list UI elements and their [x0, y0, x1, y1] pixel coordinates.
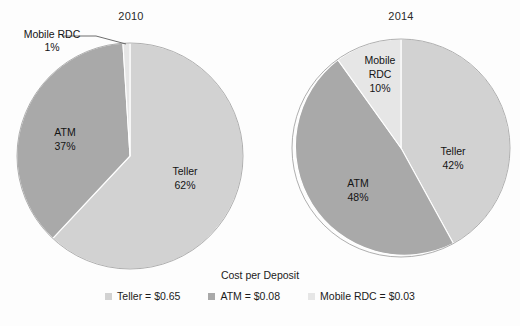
legend-item-mobile-rdc[interactable]: Mobile RDC = $0.03	[308, 290, 415, 302]
pie-chart-2014: Teller 42% ATM 48% Mobile RDC 10%	[280, 0, 520, 280]
slice-label-teller-2014-pct: 42%	[442, 159, 463, 171]
slice-label-atm-2014-pct: 48%	[347, 191, 368, 203]
legend-label-mobile-rdc: Mobile RDC = $0.03	[320, 290, 415, 302]
legend-swatch-teller	[105, 293, 112, 300]
legend-title: Cost per Deposit	[0, 269, 520, 281]
slice-label-atm-2010-pct: 37%	[54, 140, 75, 152]
legend-swatch-mobile-rdc	[308, 293, 315, 300]
slice-label-teller-2010-name: Teller	[172, 165, 198, 177]
slice-label-mobile-rdc-2014-name-line1: Mobile	[365, 54, 396, 66]
callout-mobile-rdc-2010: Mobile RDC 1%	[6, 28, 98, 54]
callout-mobile-rdc-2010-pct: 1%	[6, 41, 98, 54]
legend-item-atm[interactable]: ATM = $0.08	[208, 290, 280, 302]
slice-label-mobile-rdc-2014-name-line2: RDC	[369, 68, 392, 80]
slice-label-atm-2010-name: ATM	[54, 126, 75, 138]
slice-label-mobile-rdc-2014-pct: 10%	[369, 82, 390, 94]
pie-chart-figure: 2010 Teller 62% ATM 37% Mobile RDC 1% 20…	[0, 0, 520, 326]
callout-mobile-rdc-2010-name: Mobile RDC	[6, 28, 98, 41]
slice-label-teller-2010-pct: 62%	[174, 179, 195, 191]
legend-label-atm: ATM = $0.08	[220, 290, 280, 302]
legend: Teller = $0.65 ATM = $0.08 Mobile RDC = …	[0, 290, 520, 302]
legend-swatch-atm	[208, 293, 215, 300]
slice-label-teller-2014-name: Teller	[440, 145, 466, 157]
legend-label-teller: Teller = $0.65	[117, 290, 180, 302]
legend-item-teller[interactable]: Teller = $0.65	[105, 290, 180, 302]
slice-label-atm-2014-name: ATM	[347, 177, 368, 189]
